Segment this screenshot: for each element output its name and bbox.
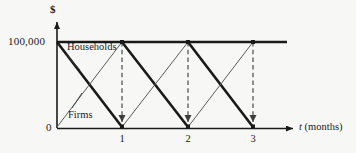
series-label-firms: Firms bbox=[68, 110, 93, 121]
x-tick-label-1: 1 bbox=[119, 133, 124, 144]
x-axis-label-units: (months) bbox=[302, 121, 343, 132]
x-tick-label-3: 3 bbox=[250, 133, 255, 144]
x-tick-label-2: 2 bbox=[185, 133, 190, 144]
origin-label: 0 bbox=[46, 122, 52, 133]
y-axis-label: $ bbox=[50, 4, 56, 15]
series-label-households: Households bbox=[67, 42, 117, 53]
money-balances-chart: $ 100,000 0 Households Firms t (months) … bbox=[0, 0, 356, 153]
transfer-arrows bbox=[122, 42, 253, 122]
x-axis-label: t (months) bbox=[299, 122, 342, 133]
y-axis-max-tick-label: 100,000 bbox=[8, 36, 45, 47]
firms-leader-line bbox=[72, 93, 82, 108]
households-leader-line bbox=[66, 54, 80, 70]
